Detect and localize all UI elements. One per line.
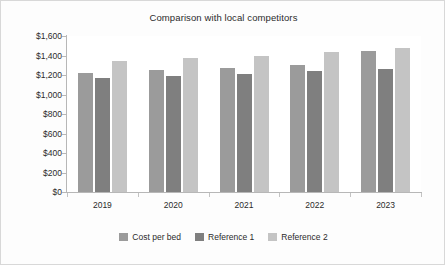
y-axis-tick-label: $600 [6, 129, 62, 139]
y-axis-tick-label: $200 [6, 168, 62, 178]
bar [324, 52, 339, 192]
y-axis-tick-mark [62, 56, 66, 57]
x-axis-tick-label: 2021 [235, 200, 254, 210]
y-axis-tick-mark [62, 95, 66, 96]
x-axis-tick-mark [279, 193, 280, 197]
chart-title: Comparison with local competitors [1, 12, 445, 23]
bar [183, 58, 198, 192]
bar [361, 51, 376, 192]
y-axis-tick-label: $1,600 [6, 31, 62, 41]
x-axis-tick-mark [209, 193, 210, 197]
legend-item: Reference 2 [268, 232, 327, 242]
bar [290, 65, 305, 192]
y-axis-tick-mark [62, 36, 66, 37]
bar [149, 70, 164, 192]
x-axis-tick-mark [67, 193, 68, 197]
bar [237, 74, 252, 192]
bar [254, 56, 269, 192]
x-axis-tick-mark [421, 193, 422, 197]
x-axis-tick-label: 2022 [305, 200, 324, 210]
legend-item: Cost per bed [119, 232, 181, 242]
bar [378, 69, 393, 192]
y-axis-tick-mark [62, 173, 66, 174]
x-axis-tick-mark [350, 193, 351, 197]
y-axis-tick-mark [62, 114, 66, 115]
bar [95, 78, 110, 192]
y-axis-tick-label: $400 [6, 148, 62, 158]
y-axis-tick-mark [62, 75, 66, 76]
y-axis-tick-label: $1,200 [6, 70, 62, 80]
y-axis: $0$200$400$600$800$1,000$1,200$1,400$1,6… [1, 1, 62, 265]
bar [166, 76, 181, 192]
x-axis-tick-label: 2019 [93, 200, 112, 210]
bar [112, 61, 127, 192]
y-axis-tick-label: $0 [6, 187, 62, 197]
chart-container: Comparison with local competitors $0$200… [0, 0, 445, 265]
legend-label: Reference 1 [208, 232, 254, 242]
y-axis-tick-label: $1,400 [6, 51, 62, 61]
y-axis-tick-label: $1,000 [6, 90, 62, 100]
bar [307, 71, 322, 192]
legend-swatch-icon [119, 233, 128, 241]
bar [220, 68, 235, 192]
bar [78, 73, 93, 192]
x-axis-tick-label: 2023 [376, 200, 395, 210]
legend-item: Reference 1 [195, 232, 254, 242]
y-axis-tick-mark [62, 153, 66, 154]
legend-swatch-icon [195, 233, 204, 241]
y-axis-tick-mark [62, 192, 66, 193]
x-axis-tick-label: 2020 [164, 200, 183, 210]
legend-swatch-icon [268, 233, 277, 241]
bar [395, 48, 410, 192]
y-axis-tick-label: $800 [6, 109, 62, 119]
y-axis-tick-mark [62, 134, 66, 135]
chart-legend: Cost per bedReference 1Reference 2 [1, 232, 445, 242]
plot-area [67, 36, 421, 192]
x-axis-tick-mark [138, 193, 139, 197]
legend-label: Reference 2 [281, 232, 327, 242]
x-axis-line [66, 192, 422, 193]
legend-label: Cost per bed [132, 232, 181, 242]
